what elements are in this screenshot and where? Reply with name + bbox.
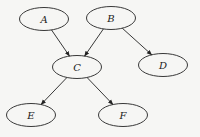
node-c: C (53, 56, 102, 79)
node-d: D (139, 54, 188, 77)
node-f: F (99, 104, 148, 127)
edge-b-c (85, 29, 104, 56)
nodes: ABCDEF (7, 7, 188, 127)
edges (41, 28, 152, 104)
edge-b-d (122, 28, 151, 55)
node-label: C (73, 62, 81, 73)
graph-svg: ABCDEF (0, 0, 200, 137)
node-label: E (26, 110, 35, 121)
diagram-canvas: ABCDEF (0, 0, 200, 137)
node-b: B (87, 7, 136, 30)
node-label: D (158, 60, 167, 71)
edge-a-c (52, 30, 70, 56)
edge-c-f (87, 77, 113, 104)
node-label: A (39, 14, 47, 25)
node-e: E (7, 104, 56, 127)
node-label: B (106, 13, 114, 24)
edge-c-e (41, 77, 67, 104)
node-label: F (119, 110, 128, 121)
node-a: A (20, 8, 69, 31)
